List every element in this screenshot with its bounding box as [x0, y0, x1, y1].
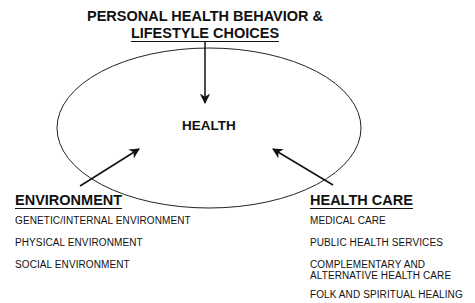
health-care-item: MEDICAL CARE — [310, 215, 463, 226]
health-label: HEALTH — [182, 118, 236, 133]
health-care-item: PUBLIC HEALTH SERVICES — [310, 237, 463, 248]
environment-item: PHYSICAL ENVIRONMENT — [15, 237, 191, 248]
health-care-group: HEALTH CARE MEDICAL CARE PUBLIC HEALTH S… — [310, 191, 463, 303]
title-line-2: LIFESTYLE CHOICES — [131, 26, 279, 42]
health-care-item: FOLK AND SPIRITUAL HEALING — [310, 289, 463, 300]
environment-heading: ENVIRONMENT — [15, 193, 122, 209]
environment-item: SOCIAL ENVIRONMENT — [15, 259, 191, 270]
lifestyle-title: PERSONAL HEALTH BEHAVIOR & LIFESTYLE CHO… — [0, 8, 410, 42]
health-care-arrow — [273, 149, 333, 185]
environment-arrow — [80, 149, 139, 186]
environment-item: GENETIC/INTERNAL ENVIRONMENT — [15, 215, 191, 226]
title-line-1: PERSONAL HEALTH BEHAVIOR & — [0, 8, 410, 25]
health-care-heading: HEALTH CARE — [310, 193, 413, 209]
environment-group: ENVIRONMENT GENETIC/INTERNAL ENVIRONMENT… — [15, 191, 191, 281]
health-care-item: COMPLEMENTARY AND ALTERNATIVE HEALTH CAR… — [310, 259, 460, 281]
